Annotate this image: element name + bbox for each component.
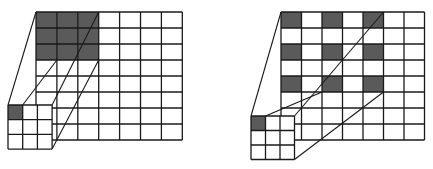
shaded-cell [281, 76, 302, 92]
shaded-cell [36, 28, 57, 44]
shaded-cell [57, 28, 78, 44]
standard-convolution-panel [8, 12, 182, 149]
shaded-cell [78, 28, 99, 44]
kernel-shaded-cell [8, 105, 23, 120]
projection-line [23, 60, 57, 105]
shaded-cell [363, 12, 384, 28]
shaded-cell [322, 76, 343, 92]
shaded-cell [57, 12, 78, 28]
shaded-cell [281, 12, 302, 28]
input-feature-map [36, 12, 182, 140]
convolution-diagram [0, 0, 433, 169]
kernel-shaded-cell [251, 116, 266, 131]
shaded-cell [363, 44, 384, 60]
dilated-convolution-panel [251, 12, 425, 160]
input-feature-map [281, 12, 425, 140]
shaded-cell [36, 12, 57, 28]
shaded-cell [322, 44, 343, 60]
shaded-cell [57, 44, 78, 60]
projection-line [52, 60, 99, 149]
projection-line [295, 92, 384, 160]
projection-line [266, 92, 323, 116]
shaded-cell [322, 12, 343, 28]
projection-line [251, 12, 281, 116]
shaded-cell [36, 44, 57, 60]
projection-line [8, 12, 36, 105]
shaded-cell [78, 12, 99, 28]
shaded-cell [363, 76, 384, 92]
shaded-cell [281, 44, 302, 60]
